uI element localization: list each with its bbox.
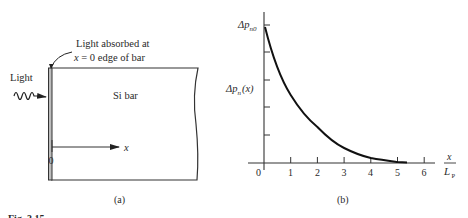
annotation-leader bbox=[51, 52, 72, 68]
annotation-line2: x = 0 edge of bar bbox=[73, 52, 145, 63]
si-bar bbox=[51, 68, 198, 180]
svg-text:6: 6 bbox=[422, 167, 427, 178]
y-top-label: Δpn0 bbox=[237, 19, 257, 33]
svg-text:3: 3 bbox=[342, 167, 347, 178]
axis-var-label: x bbox=[123, 142, 129, 153]
decay-curve bbox=[265, 27, 407, 163]
panel-b: 0 1 2 3 4 5 6 x L P Δpn0 Δpn(x) (b) bbox=[225, 12, 456, 206]
x-axis-label: x L P bbox=[443, 151, 456, 179]
svg-text:4: 4 bbox=[368, 167, 373, 178]
svg-text:2: 2 bbox=[315, 167, 320, 178]
svg-text:0: 0 bbox=[256, 167, 261, 178]
panel-a-label: (a) bbox=[114, 194, 125, 206]
light-wave-icon bbox=[14, 93, 46, 100]
axis-origin-label: 0 bbox=[49, 155, 54, 166]
si-bar-label: Si bar bbox=[113, 90, 138, 101]
svg-text:5: 5 bbox=[395, 167, 400, 178]
svg-text:x: x bbox=[446, 151, 452, 162]
panel-a: Light Light absorbed at x = 0 edge of ba… bbox=[10, 38, 198, 206]
y-mid-label: Δpn(x) bbox=[225, 83, 254, 97]
svg-text:1: 1 bbox=[288, 167, 293, 178]
svg-text:P: P bbox=[452, 172, 456, 179]
annotation-line1: Light absorbed at bbox=[76, 38, 150, 49]
figure-caption: Fig. 3.15 bbox=[8, 213, 44, 218]
x-tick-labels: 0 1 2 3 4 5 6 bbox=[256, 167, 427, 178]
light-label: Light bbox=[10, 72, 33, 83]
figure: Light Light absorbed at x = 0 edge of ba… bbox=[0, 0, 468, 218]
panel-b-label: (b) bbox=[337, 194, 349, 206]
svg-text:L: L bbox=[443, 165, 450, 177]
